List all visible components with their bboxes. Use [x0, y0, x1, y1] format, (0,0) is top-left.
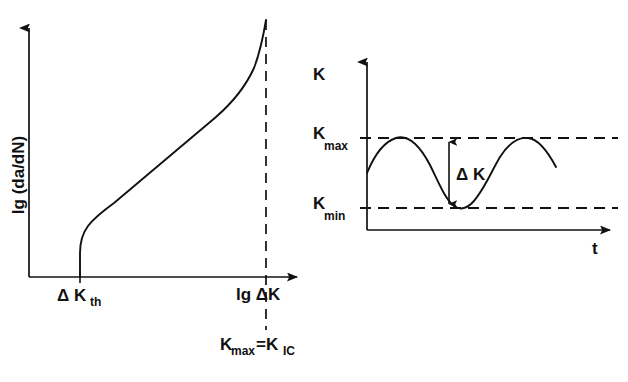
k-min-label: K min	[313, 194, 345, 223]
right-x-axis-label: t	[592, 239, 598, 258]
critical-label: K max =K IC	[220, 335, 295, 358]
left-x-axis-label: lg ΔK	[236, 285, 281, 304]
delta-k-label: Δ K	[456, 165, 486, 184]
figure-root: lg (da/dN) lg ΔK Δ K th K max =K IC	[0, 0, 628, 382]
critical-label-kmax-sub: max	[231, 344, 255, 358]
threshold-label: Δ K th	[57, 286, 101, 309]
critical-label-kic-sub: IC	[283, 344, 295, 358]
threshold-label-sub: th	[90, 295, 101, 309]
fatigue-diagram-canvas: lg (da/dN) lg ΔK Δ K th K max =K IC	[0, 0, 628, 382]
threshold-label-main: Δ K	[57, 286, 87, 305]
k-min-label-sub: min	[324, 209, 345, 223]
k-max-label-sub: max	[324, 139, 348, 153]
right-y-axis-label: K	[313, 65, 326, 84]
k-max-label: K max	[313, 124, 348, 153]
critical-label-kic: =K	[256, 335, 279, 354]
crack-growth-curve	[80, 20, 266, 277]
left-y-axis-label: lg (da/dN)	[9, 136, 28, 214]
right-chart-group: K t K max K min Δ K	[313, 62, 618, 258]
left-chart-group: lg (da/dN) lg ΔK Δ K th K max =K IC	[9, 20, 297, 358]
